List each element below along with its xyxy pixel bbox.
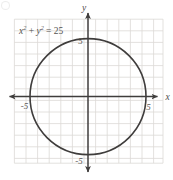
equation-annotation: x2 + y2 = 25 bbox=[18, 24, 64, 35]
y-tick-label-positive-5: 5 bbox=[78, 36, 83, 46]
math-figure-circle-graph: x2 + y2 = 25 y x -5 5 5 -5 bbox=[0, 0, 173, 180]
x-axis-label: x bbox=[164, 92, 170, 102]
x-tick-label-positive-5: 5 bbox=[146, 102, 151, 112]
page-corner-artifact bbox=[2, 2, 9, 9]
equation-plus: + bbox=[26, 26, 36, 36]
y-axis-label: y bbox=[81, 3, 87, 13]
y-tick-label-negative-5: -5 bbox=[75, 156, 83, 166]
coordinate-plane-svg: x2 + y2 = 25 y x -5 5 5 -5 bbox=[0, 0, 173, 180]
equation-equals: = bbox=[44, 26, 54, 36]
x-tick-label-negative-5: -5 bbox=[21, 101, 29, 111]
equation-value: 25 bbox=[54, 26, 64, 36]
